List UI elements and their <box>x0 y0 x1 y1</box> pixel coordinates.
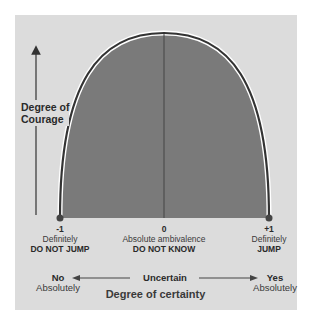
scale-center-label: Uncertain <box>132 273 198 283</box>
point-value: +1 <box>244 224 294 234</box>
point-line2: DO NOT KNOW <box>114 244 214 254</box>
point-plus-one: +1 Definitely JUMP <box>244 224 294 254</box>
left-endpoint-dot <box>57 215 64 222</box>
point-line1: Definitely <box>30 234 90 244</box>
y-axis-label-line2: Courage <box>21 113 69 125</box>
x-axis-title: Degree of certainty <box>0 288 311 300</box>
point-line2: JUMP <box>244 244 294 254</box>
point-line1: Definitely <box>244 234 294 244</box>
point-zero: 0 Absolute ambivalence DO NOT KNOW <box>114 224 214 254</box>
point-line1: Absolute ambivalence <box>114 234 214 244</box>
point-value: 0 <box>114 224 214 234</box>
y-axis-label-line1: Degree of <box>21 101 69 113</box>
point-minus-one: -1 Definitely DO NOT JUMP <box>30 224 90 254</box>
point-value: -1 <box>30 224 90 234</box>
point-line2: DO NOT JUMP <box>30 244 90 254</box>
right-endpoint-dot <box>266 215 273 222</box>
y-axis-label: Degree of Courage <box>21 100 69 126</box>
